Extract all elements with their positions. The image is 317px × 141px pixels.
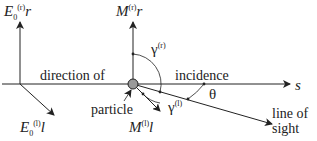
label-gamma-r: γ(r) [151,42,166,57]
label-line-of: line of [272,107,308,121]
label-theta: θ [209,87,216,102]
particle-pointer [124,90,131,101]
line-of-sight [133,84,272,124]
label-ml: M(l)l [129,120,153,135]
label-gamma-l: γ(l) [168,100,182,115]
label-e0r: E0(r)r [4,4,31,19]
label-mr: M(r)r [116,4,142,19]
label-e0l: E0(l)l [20,120,45,135]
label-particle: particle [91,103,133,117]
theta-arc [188,84,204,99]
label-direction-of: direction of [40,69,105,83]
particle-icon [128,79,138,89]
label-s-vec: s [295,78,301,93]
label-incidence: incidence [175,69,229,83]
gamma-l-arc [143,94,160,103]
e0l-arrow [20,84,54,115]
label-sight: sight [272,122,299,136]
